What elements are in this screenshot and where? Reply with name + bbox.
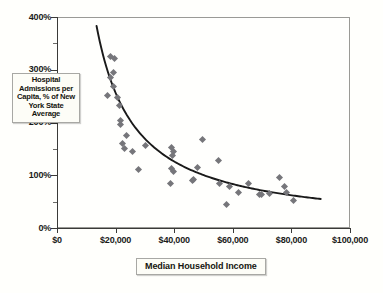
y-tick-minor — [53, 149, 57, 150]
x-tick-label: $40,000 — [159, 235, 190, 245]
y-axis-title: Hospital Admissions per Capita, % of New… — [12, 73, 80, 123]
x-tick-label: $20,000 — [100, 235, 131, 245]
x-tick — [116, 228, 117, 233]
y-tick-minor — [53, 202, 57, 203]
chart-container: 0%100%200%300%400% $0$20,000$40,000$60,0… — [0, 0, 383, 293]
x-tick — [350, 228, 351, 233]
x-tick-label: $0 — [52, 235, 62, 245]
x-axis-line — [57, 228, 351, 229]
x-tick — [291, 228, 292, 233]
x-tick-label: $100,000 — [332, 235, 368, 245]
plot-area — [57, 17, 350, 228]
y-tick-label: 0% — [38, 224, 51, 233]
x-tick — [174, 228, 175, 233]
x-axis-title: Median Household Income — [136, 258, 266, 275]
x-tick — [233, 228, 234, 233]
y-tick — [51, 175, 57, 176]
y-tick — [51, 17, 57, 18]
y-tick-label: 400% — [29, 13, 51, 22]
x-tick-label: $80,000 — [276, 235, 307, 245]
y-tick-minor — [53, 43, 57, 44]
x-tick-label: $60,000 — [217, 235, 248, 245]
y-axis-line — [57, 17, 58, 229]
y-tick — [51, 70, 57, 71]
x-tick — [57, 228, 58, 233]
y-tick-label: 100% — [29, 171, 51, 180]
